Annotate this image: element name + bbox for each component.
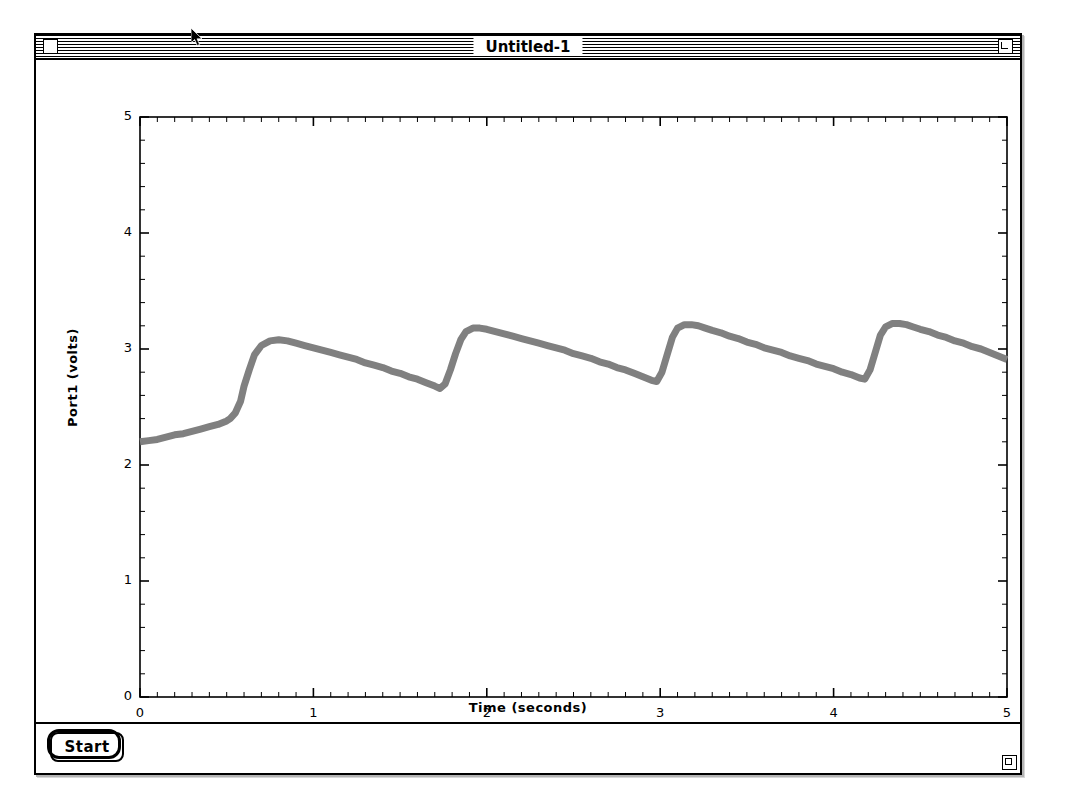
start-button[interactable]: Start xyxy=(50,732,124,762)
grow-box-resize-handle[interactable] xyxy=(1002,755,1017,770)
window-title-bar[interactable]: Untitled-1 xyxy=(36,35,1020,60)
start-button-label: Start xyxy=(52,734,122,760)
desktop-background: Untitled-1 Port1 (volts) Time (seconds) … xyxy=(0,0,1065,809)
plot-wrapper: Port1 (volts) Time (seconds) 012345 0123… xyxy=(36,60,1020,720)
window-title: Untitled-1 xyxy=(473,38,582,56)
zoom-box-icon[interactable] xyxy=(998,39,1013,54)
application-window: Untitled-1 Port1 (volts) Time (seconds) … xyxy=(34,33,1022,775)
plot-content-area: Port1 (volts) Time (seconds) 012345 0123… xyxy=(36,60,1020,720)
close-box-icon[interactable] xyxy=(43,39,58,54)
chart-plot xyxy=(36,60,1020,720)
window-bottom-panel: Start xyxy=(36,722,1020,773)
